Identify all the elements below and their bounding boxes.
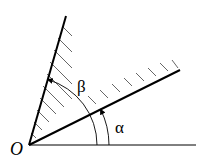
wedge-diagram: O β α <box>0 0 204 160</box>
beta-label: β <box>77 77 86 96</box>
alpha-arc <box>101 109 109 145</box>
beta-arc <box>48 80 97 145</box>
origin-label: O <box>10 139 23 159</box>
steep-ray <box>29 16 66 145</box>
alpha-label: α <box>115 118 124 137</box>
